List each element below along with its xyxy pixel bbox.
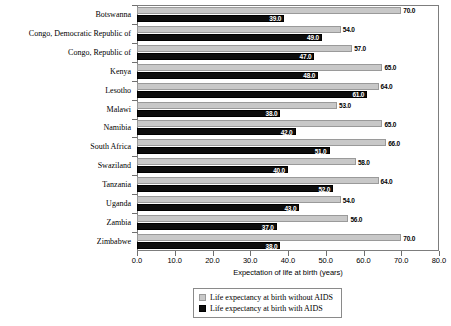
bar-value-label: 40.0 bbox=[273, 166, 285, 173]
bar-with-aids: 40.0 bbox=[137, 166, 288, 173]
plot-area: 70.039.054.049.057.047.065.048.064.061.0… bbox=[137, 5, 439, 251]
bar-value-label: 70.0 bbox=[403, 7, 415, 14]
bar-without-aids: 64.0 bbox=[137, 83, 379, 90]
value-tick-label: 80.0 bbox=[432, 256, 447, 265]
bar-group: 53.038.0 bbox=[137, 100, 439, 119]
bar-value-label: 58.0 bbox=[358, 158, 370, 165]
value-tick-label: 30.0 bbox=[243, 256, 258, 265]
bar-value-label: 64.0 bbox=[381, 83, 393, 90]
bar-with-aids: 42.0 bbox=[137, 128, 296, 135]
bar-value-label: 54.0 bbox=[343, 26, 355, 33]
bar-without-aids: 57.0 bbox=[137, 45, 352, 52]
bar-group: 64.061.0 bbox=[137, 81, 439, 100]
bar-group: 56.037.0 bbox=[137, 213, 439, 232]
bar-without-aids: 64.0 bbox=[137, 177, 379, 184]
life-expectancy-bar-chart: BotswannaCongo, Democratic Republic ofCo… bbox=[0, 0, 451, 326]
bar-value-label: 42.0 bbox=[281, 128, 293, 135]
bar-without-aids: 54.0 bbox=[137, 26, 341, 33]
bar-without-aids: 70.0 bbox=[137, 7, 401, 14]
bar-without-aids: 56.0 bbox=[137, 215, 348, 222]
bar-value-label: 39.0 bbox=[269, 15, 281, 22]
bar-value-label: 61.0 bbox=[352, 91, 364, 98]
bar-value-label: 66.0 bbox=[388, 139, 400, 146]
value-tick-label: 50.0 bbox=[318, 256, 333, 265]
bar-value-label: 70.0 bbox=[403, 234, 415, 241]
bar-rows: 70.039.054.049.057.047.065.048.064.061.0… bbox=[137, 5, 439, 251]
legend-swatch-light bbox=[199, 294, 206, 301]
bar-with-aids: 51.0 bbox=[137, 147, 330, 154]
value-axis-labels: 0.010.020.030.040.050.060.070.080.0 bbox=[137, 256, 439, 268]
bar-without-aids: 70.0 bbox=[137, 234, 401, 241]
category-label: Botswanna bbox=[0, 5, 135, 24]
category-label: Swaziland bbox=[0, 156, 135, 175]
category-label: Zambia bbox=[0, 213, 135, 232]
category-label: Congo, Democratic Republic of bbox=[0, 24, 135, 43]
bar-with-aids: 52.0 bbox=[137, 185, 333, 192]
bar-with-aids: 49.0 bbox=[137, 34, 322, 41]
bar-without-aids: 65.0 bbox=[137, 64, 382, 71]
bar-without-aids: 66.0 bbox=[137, 139, 386, 146]
bar-group: 58.040.0 bbox=[137, 156, 439, 175]
bar-group: 57.047.0 bbox=[137, 43, 439, 62]
chart-legend: Life expectancy at birth without AIDSLif… bbox=[193, 288, 342, 318]
bar-with-aids: 43.0 bbox=[137, 204, 299, 211]
legend-label: Life expectancy at birth without AIDS bbox=[210, 293, 333, 302]
bar-value-label: 65.0 bbox=[384, 120, 396, 127]
bar-with-aids: 47.0 bbox=[137, 53, 314, 60]
bar-value-label: 64.0 bbox=[381, 177, 393, 184]
bar-value-label: 47.0 bbox=[300, 53, 312, 60]
bar-without-aids: 58.0 bbox=[137, 158, 356, 165]
legend-item: Life expectancy at birth with AIDS bbox=[199, 303, 333, 314]
bar-without-aids: 54.0 bbox=[137, 196, 341, 203]
bar-with-aids: 38.0 bbox=[137, 110, 280, 117]
category-axis: BotswannaCongo, Democratic Republic ofCo… bbox=[0, 5, 135, 251]
bar-group: 66.051.0 bbox=[137, 137, 439, 156]
category-label: Zimbabwe bbox=[0, 232, 135, 251]
category-label: Uganda bbox=[0, 194, 135, 213]
value-tick-label: 20.0 bbox=[205, 256, 220, 265]
bar-without-aids: 65.0 bbox=[137, 120, 382, 127]
bar-without-aids: 53.0 bbox=[137, 102, 337, 109]
bar-with-aids: 48.0 bbox=[137, 72, 318, 79]
category-label: Namibia bbox=[0, 119, 135, 138]
bar-group: 70.039.0 bbox=[137, 5, 439, 24]
value-tick-label: 0.0 bbox=[132, 256, 142, 265]
bar-with-aids: 39.0 bbox=[137, 15, 284, 22]
bar-value-label: 48.0 bbox=[303, 72, 315, 79]
bar-value-label: 65.0 bbox=[384, 64, 396, 71]
bar-group: 70.038.0 bbox=[137, 232, 439, 251]
bar-group: 54.049.0 bbox=[137, 24, 439, 43]
value-tick-label: 70.0 bbox=[394, 256, 409, 265]
bar-group: 54.043.0 bbox=[137, 194, 439, 213]
value-tick-label: 10.0 bbox=[167, 256, 182, 265]
bar-value-label: 38.0 bbox=[266, 242, 278, 249]
category-label: Tanzania bbox=[0, 175, 135, 194]
bar-with-aids: 61.0 bbox=[137, 91, 367, 98]
bar-value-label: 56.0 bbox=[350, 215, 362, 222]
value-tick-label: 40.0 bbox=[281, 256, 296, 265]
category-label: Malawi bbox=[0, 100, 135, 119]
bar-value-label: 57.0 bbox=[354, 45, 366, 52]
bar-value-label: 49.0 bbox=[307, 34, 319, 41]
category-label: Lesotho bbox=[0, 81, 135, 100]
legend-item: Life expectancy at birth without AIDS bbox=[199, 292, 333, 303]
category-label: South Africa bbox=[0, 137, 135, 156]
bar-value-label: 51.0 bbox=[315, 147, 327, 154]
bar-value-label: 53.0 bbox=[339, 102, 351, 109]
bar-value-label: 43.0 bbox=[284, 204, 296, 211]
bar-with-aids: 38.0 bbox=[137, 242, 280, 249]
bar-value-label: 37.0 bbox=[262, 223, 274, 230]
bar-value-label: 52.0 bbox=[318, 185, 330, 192]
value-tick-label: 60.0 bbox=[356, 256, 371, 265]
bar-group: 64.052.0 bbox=[137, 175, 439, 194]
category-label: Kenya bbox=[0, 62, 135, 81]
bar-value-label: 38.0 bbox=[266, 110, 278, 117]
legend-label: Life expectancy at birth with AIDS bbox=[210, 304, 323, 313]
bar-group: 65.042.0 bbox=[137, 119, 439, 138]
category-label: Congo, Republic of bbox=[0, 43, 135, 62]
bar-with-aids: 37.0 bbox=[137, 223, 277, 230]
x-axis-title: Expectation of life at birth (years) bbox=[137, 268, 439, 277]
bar-value-label: 54.0 bbox=[343, 196, 355, 203]
legend-swatch-dark bbox=[199, 305, 206, 312]
bar-group: 65.048.0 bbox=[137, 62, 439, 81]
